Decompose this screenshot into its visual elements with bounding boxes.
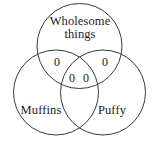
region-value-top-left-overlap: 0 bbox=[50, 56, 64, 68]
region-value-center-right: 0 bbox=[79, 72, 93, 84]
venn-diagram: Wholesome things Muffins Puffy 0 0 0 0 bbox=[0, 0, 158, 148]
region-value-center-left: 0 bbox=[65, 72, 79, 84]
region-value-top-right-overlap: 0 bbox=[98, 56, 112, 68]
